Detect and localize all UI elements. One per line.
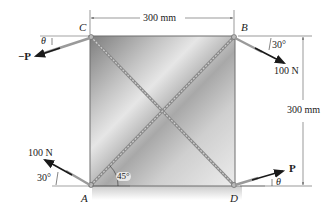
diagram-stage: C B A D 300 mm 300 mm −P θ 30° 100 N 100… <box>0 0 336 213</box>
label-force-A: 100 N <box>28 148 53 158</box>
label-force-P: P <box>289 163 296 174</box>
label-theta-D: θ <box>276 177 281 187</box>
force-arrow-minus-P <box>36 48 60 56</box>
label-angle-B: 30° <box>272 40 286 50</box>
dim-label-width: 300 mm <box>143 13 176 23</box>
label-point-B: B <box>241 22 248 33</box>
label-theta-C: θ <box>41 36 46 46</box>
label-angle-45: 45° <box>116 172 131 181</box>
label-force-B: 100 N <box>274 66 299 76</box>
plate-shadow <box>92 186 242 200</box>
force-arrow-100N-B <box>255 48 284 63</box>
label-force-minus-P: −P <box>18 51 31 62</box>
label-point-C: C <box>79 22 86 33</box>
angle-mark-A <box>56 172 58 185</box>
label-angle-A: 30° <box>37 173 51 183</box>
dim-label-height: 300 mm <box>287 105 320 115</box>
label-point-D: D <box>230 193 238 204</box>
angle-mark-B <box>269 38 271 50</box>
label-point-A: A <box>81 193 88 204</box>
